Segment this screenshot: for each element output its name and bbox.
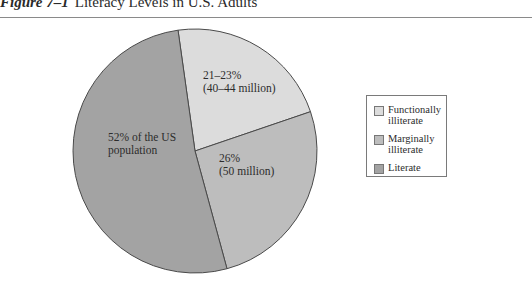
- legend-label: Functionally illiterate: [388, 104, 448, 126]
- legend-swatch: [374, 135, 384, 145]
- legend-swatch: [374, 164, 384, 174]
- legend-swatch: [374, 106, 384, 116]
- pie-chart: [0, 0, 532, 281]
- slice-label-line: (40–44 million): [203, 82, 276, 95]
- slice-label-line: 21–23%: [203, 69, 276, 82]
- slice-label-literate: 52% of the US population: [108, 131, 176, 157]
- slice-label-functionally-illiterate: 21–23% (40–44 million): [203, 69, 276, 95]
- legend: Functionally illiterate Marginally illit…: [366, 95, 447, 177]
- legend-label: Marginally illiterate: [388, 133, 448, 155]
- legend-item-marginally-illiterate: Marginally illiterate: [374, 133, 448, 155]
- slice-label-line: (50 million): [219, 165, 274, 178]
- legend-item-literate: Literate: [374, 162, 448, 174]
- slice-label-marginally-illiterate: 26% (50 million): [219, 152, 274, 178]
- slice-label-line: population: [108, 144, 176, 157]
- slice-label-line: 52% of the US: [108, 131, 176, 144]
- legend-item-functionally-illiterate: Functionally illiterate: [374, 104, 448, 126]
- legend-label: Literate: [388, 162, 448, 173]
- slice-label-line: 26%: [219, 152, 274, 165]
